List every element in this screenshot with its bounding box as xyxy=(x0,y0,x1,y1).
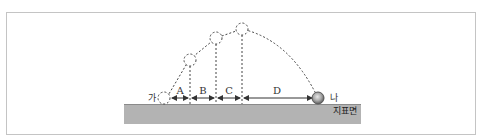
ball-position-3 xyxy=(236,23,248,35)
ball-position-start xyxy=(158,92,170,104)
start-label: 가 xyxy=(148,93,156,103)
trajectory-diagram: A B C D 가 나 지표면 xyxy=(0,0,483,139)
segment-label-c: C xyxy=(225,85,233,96)
segment-label-b: B xyxy=(199,85,206,96)
ground-surface xyxy=(124,104,361,124)
segment-label-d: D xyxy=(273,85,281,96)
ball-position-1 xyxy=(184,54,196,66)
ball-position-2 xyxy=(210,32,222,44)
drop-lines xyxy=(190,35,242,104)
ball-final xyxy=(312,92,324,104)
ground-label: 지표면 xyxy=(333,106,357,116)
trajectory-path xyxy=(163,29,318,104)
end-label: 나 xyxy=(330,93,338,103)
segment-label-a: A xyxy=(175,85,184,96)
